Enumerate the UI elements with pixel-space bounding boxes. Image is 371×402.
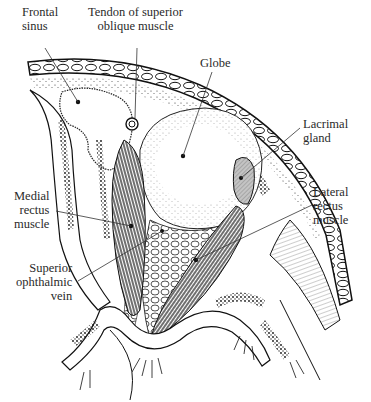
- label-superior-ophthalmic-vein: Superior ophthalmic vein: [16, 261, 72, 303]
- label-lacrimal-gland: Lacrimal gland: [303, 117, 348, 145]
- trochlea: [126, 118, 138, 130]
- lacrimal-gland: [233, 157, 254, 204]
- label-medial-rectus: Medial rectus muscle: [14, 189, 49, 231]
- leader-tendon-superior-oblique: [135, 48, 137, 118]
- label-lateral-rectus: Lateral rectus muscle: [313, 185, 348, 227]
- label-tendon-superior-oblique: Tendon of superior oblique muscle: [88, 5, 183, 33]
- label-globe: Globe: [200, 56, 231, 70]
- label-frontal-sinus: Frontal sinus: [22, 5, 58, 33]
- medial-rectus-muscle: [112, 140, 145, 316]
